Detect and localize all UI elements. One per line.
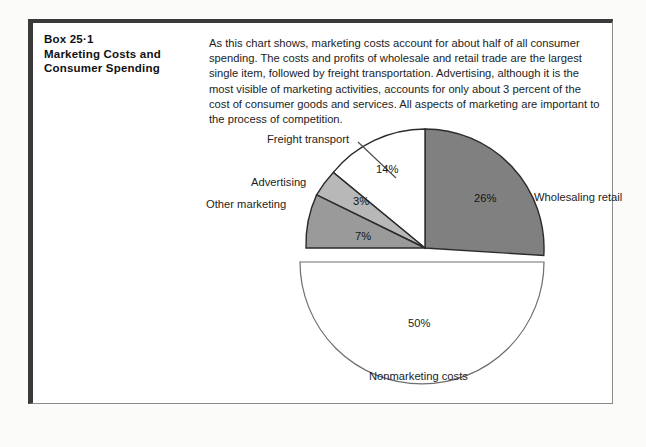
value-label-nonmarketing-costs: 50% [408,317,430,329]
box-title-line-1: Marketing Costs and [44,47,204,62]
label-wholesaling-retail: Wholesaling retail [534,191,622,203]
value-label-wholesaling-retail: 26% [474,192,496,204]
box-title-line-2: Consumer Spending [44,61,204,76]
box-title: Box 25·1 Marketing Costs and Consumer Sp… [44,32,204,76]
box-number: Box 25·1 [44,32,204,47]
page-canvas: Box 25·1 Marketing Costs and Consumer Sp… [0,0,646,447]
pie-chart: Freight transport Advertising Other mark… [28,120,613,404]
label-freight-transport: Freight transport [267,133,349,145]
label-advertising: Advertising [251,176,306,188]
label-other-marketing: Other marketing [206,198,286,210]
value-label-advertising: 3% [353,195,369,207]
box-body-text: As this chart shows, marketing costs acc… [209,36,601,127]
value-label-other-marketing: 7% [355,230,371,242]
pie-chart-svg [28,120,613,404]
label-nonmarketing-costs: Nonmarketing costs [369,370,468,382]
value-label-freight-transport: 14% [376,163,398,175]
